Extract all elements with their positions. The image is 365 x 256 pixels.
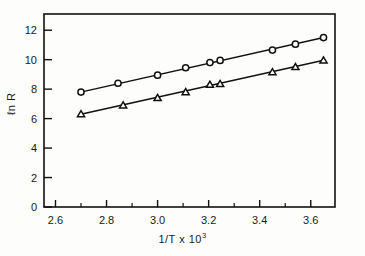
marker-upper-series-5	[217, 57, 223, 63]
x-axis-title-text: 1/T x 10	[158, 233, 202, 245]
y-tick-label-3: 6	[31, 113, 37, 125]
x-axis-title-exponent: 3	[202, 231, 207, 240]
marker-upper-series-2	[154, 72, 160, 78]
marker-lower-series-4	[206, 81, 213, 87]
x-tick-label-3: 3.2	[201, 214, 216, 226]
y-tick-label-0: 0	[31, 201, 37, 213]
marker-upper-series-1	[115, 80, 121, 86]
marker-lower-series-0	[77, 111, 84, 117]
x-tick-label-1: 2.8	[99, 214, 114, 226]
marker-lower-series-8	[320, 57, 327, 63]
y-tick-label-2: 4	[31, 142, 37, 154]
marker-lower-series-3	[182, 89, 189, 95]
plot-frame	[44, 14, 335, 207]
chart-canvas: 2.62.83.03.23.43.6 024681012	[0, 0, 365, 256]
y-axis-ticks	[44, 30, 52, 207]
y-tick-label-4: 8	[31, 83, 37, 95]
x-axis-title: 1/T x 103	[0, 231, 365, 245]
marker-upper-series-3	[183, 65, 189, 71]
marker-lower-series-7	[292, 64, 299, 70]
marker-upper-series-4	[207, 60, 213, 66]
y-tick-label-5: 10	[25, 54, 37, 66]
fit-line-lower-series	[80, 60, 325, 115]
axes-frame	[44, 14, 335, 207]
y-tick-label-6: 12	[25, 24, 37, 36]
marker-upper-series-0	[78, 89, 84, 95]
x-axis-tick-labels: 2.62.83.03.23.43.6	[48, 214, 319, 226]
series-data-markers	[77, 34, 327, 116]
y-tick-label-1: 2	[31, 172, 37, 184]
marker-lower-series-6	[269, 69, 276, 75]
marker-lower-series-1	[120, 102, 127, 108]
figure-container: 2.62.83.03.23.43.6 024681012 1/T x 103 ℓ…	[0, 0, 365, 256]
marker-upper-series-8	[320, 34, 326, 40]
marker-lower-series-2	[154, 94, 161, 100]
x-axis-ticks	[55, 200, 310, 207]
y-axis-title: ℓn R	[5, 80, 17, 128]
x-tick-label-4: 3.4	[252, 214, 267, 226]
x-tick-label-2: 3.0	[150, 214, 165, 226]
marker-upper-series-7	[292, 41, 298, 47]
x-tick-label-0: 2.6	[48, 214, 63, 226]
x-tick-label-5: 3.6	[303, 214, 318, 226]
series-fit-lines	[80, 37, 325, 114]
y-axis-tick-labels: 024681012	[25, 24, 37, 213]
marker-upper-series-6	[269, 47, 275, 53]
y-axis-title-text: ℓn R	[5, 93, 17, 116]
marker-lower-series-5	[217, 80, 224, 86]
